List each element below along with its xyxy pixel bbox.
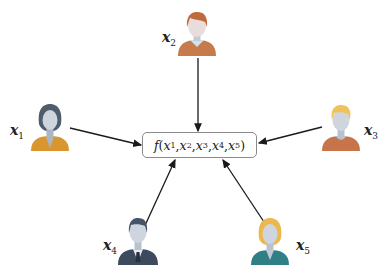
- arg-x3-var: x: [196, 138, 203, 153]
- edge-x3-to-f: [259, 127, 322, 143]
- edge-x4-to-f: [142, 160, 175, 232]
- label-x1-sub: 1: [18, 131, 24, 141]
- edge-x1-to-f: [70, 128, 141, 145]
- person-icon-x5: [251, 218, 289, 265]
- label-x1: x1: [10, 122, 24, 141]
- arg-x4-var: x: [212, 138, 219, 153]
- arg-x2-var: x: [180, 138, 187, 153]
- person-icon-x4: [118, 218, 158, 265]
- label-x5: x5: [296, 237, 310, 256]
- function-box: f(x1, x2, x3, x4, x5): [142, 132, 257, 158]
- arg-x1-var: x: [163, 138, 170, 153]
- label-x2-sub: 2: [170, 38, 176, 48]
- edge-x5-to-f: [223, 160, 268, 228]
- person-icon-x2: [178, 12, 216, 56]
- person-icon-x1: [31, 104, 69, 151]
- label-x4: x4: [103, 237, 117, 256]
- label-x2: x2: [162, 29, 176, 48]
- label-x3: x3: [364, 122, 378, 141]
- label-x4-sub: 4: [111, 246, 117, 256]
- label-x5-sub: 5: [304, 246, 310, 256]
- arg-x5-var: x: [228, 138, 235, 153]
- person-icon-x3: [322, 105, 360, 151]
- close-paren: ): [240, 138, 245, 153]
- label-x3-sub: 3: [372, 131, 378, 141]
